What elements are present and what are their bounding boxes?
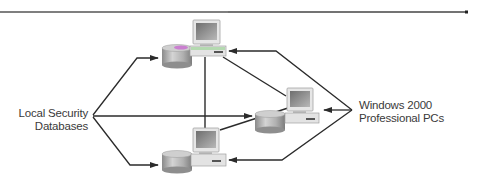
database-cylinder-icon [162, 151, 192, 174]
local-security-databases-label: Local Security Databases [19, 107, 88, 133]
diagram-svg [0, 0, 480, 181]
top-rule [0, 11, 468, 14]
label-line-2: Professional PCs [359, 112, 444, 125]
diagram-canvas: Local Security Databases Windows 2000 Pr… [0, 0, 480, 181]
label-line-1: Local Security [19, 107, 88, 120]
label-line-1: Windows 2000 [359, 99, 444, 112]
db-callout-arrows [93, 58, 252, 165]
computer-icon [191, 128, 226, 166]
workstation-middle[interactable] [255, 88, 319, 134]
arrow-to-top-db [93, 58, 158, 115]
link-top-middle [223, 57, 286, 96]
label-line-2: Databases [19, 120, 88, 133]
windows-pcs-label: Windows 2000 Professional PCs [359, 99, 444, 125]
computer-icon [190, 20, 226, 56]
database-cylinder-icon [255, 111, 285, 134]
computer-icon [285, 88, 319, 123]
workstation-bottom[interactable] [162, 128, 226, 174]
arrow-to-bottom-db [93, 117, 158, 165]
database-cylinder-icon [162, 45, 192, 69]
workstation-top[interactable] [162, 20, 226, 69]
